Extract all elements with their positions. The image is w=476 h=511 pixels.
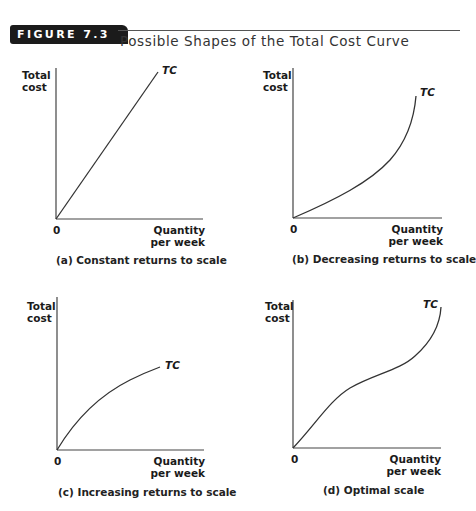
panel-a-y-label: Total cost Totalcost <box>22 69 51 93</box>
panel-b-caption: (b) Decreasing returns to scale <box>292 253 476 265</box>
panel-a-tc-label: TC <box>162 64 177 76</box>
panel-d-y-label: Totalcost <box>265 300 294 324</box>
panel-d-tc-curve <box>293 307 441 448</box>
panel-c-tc-curve <box>57 367 160 450</box>
panel-b-y-label: Totalcost <box>263 69 292 93</box>
panel-c-axes <box>57 297 204 450</box>
panel-d-axes <box>293 300 441 448</box>
panel-a-tc-curve <box>56 72 158 219</box>
panel-b-origin: 0 <box>290 223 297 235</box>
panel-c-tc-label: TC <box>165 359 180 371</box>
panel-d-origin: 0 <box>291 453 298 465</box>
panel-a-x-label: Quantityper week <box>148 224 205 248</box>
panel-d-caption: (d) Optimal scale <box>323 484 424 496</box>
panel-b-tc-label: TC <box>420 86 435 98</box>
panel-c-x-label: Quantityper week <box>146 455 205 479</box>
panel-d-x-label: Quantityper week <box>382 453 441 477</box>
panel-b-x-label: Quantityper week <box>385 223 443 247</box>
panel-c-origin: 0 <box>54 455 61 467</box>
panel-b-tc-curve <box>293 96 416 218</box>
panel-a-caption: (a) Constant returns to scale <box>56 254 227 266</box>
panel-a-axes <box>56 68 203 219</box>
panel-c-y-label: Totalcost <box>27 300 56 324</box>
panel-d-tc-label: TC <box>423 298 438 310</box>
panel-a-origin: 0 <box>53 224 60 236</box>
panel-c-caption: (c) Increasing returns to scale <box>58 486 237 498</box>
